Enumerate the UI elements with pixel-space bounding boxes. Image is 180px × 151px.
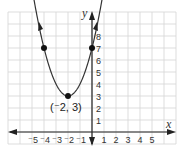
y-axis-down-arrow-icon [89,137,95,146]
y-tick-label: 3 [96,92,101,102]
graph-point [41,45,47,51]
graph-point [89,45,95,51]
y-tick-label: 5 [96,68,101,78]
x-tick-label: ⁻4 [40,135,50,145]
x-axis-left-arrow-icon [8,129,17,135]
y-tick-label: 8 [96,32,101,42]
x-tick-label: 5 [150,135,155,145]
axes: x y [8,6,176,146]
x-tick-label: ⁻3 [52,135,62,145]
coordinate-graph: x y ⁻5⁻4⁻3⁻2⁻112345 12345678 (⁻2, 3) [0,0,180,151]
y-tick-label: 6 [96,56,101,66]
x-tick-label: ⁻2 [64,135,74,145]
y-tick-labels: 12345678 [96,32,101,126]
x-tick-label: ⁻5 [28,135,38,145]
y-tick-label: 1 [96,116,101,126]
x-tick-label: 2 [114,135,119,145]
y-axis-label: y [81,6,88,20]
x-tick-label: 4 [138,135,143,145]
x-tick-label: 1 [102,135,107,145]
y-tick-label: 4 [96,80,101,90]
vertex-label: (⁻2, 3) [50,101,82,113]
x-tick-label: ⁻1 [76,135,86,145]
y-tick-label: 2 [96,104,101,114]
x-tick-label: 3 [126,135,131,145]
graph-point [65,93,71,99]
y-tick-label: 7 [96,44,101,54]
x-axis-label: x [165,117,172,131]
